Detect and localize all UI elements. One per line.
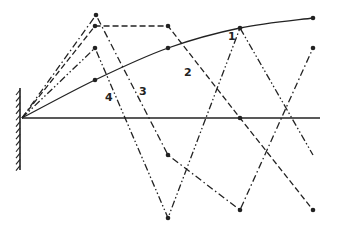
node-dot: [94, 13, 99, 18]
node-dot: [311, 46, 316, 51]
node-points: [93, 13, 316, 221]
node-dot: [311, 16, 316, 21]
fixed-wall: [16, 88, 20, 171]
mode-shape-diagram: 1234: [0, 0, 339, 236]
curve-label-2: 2: [184, 66, 192, 79]
curve-label-1: 1: [228, 30, 236, 43]
node-dot: [93, 78, 98, 83]
mode-curve-1: [22, 18, 313, 118]
mode-curves: [22, 15, 313, 218]
node-dot: [166, 153, 171, 158]
node-dot: [166, 24, 171, 29]
node-dot: [166, 46, 171, 51]
node-dot: [93, 46, 98, 51]
node-dot: [93, 24, 98, 29]
mode-curve-3: [22, 15, 313, 210]
curve-label-3: 3: [139, 85, 147, 98]
node-dot: [238, 208, 243, 213]
node-dot: [238, 26, 243, 31]
node-dot: [311, 208, 316, 213]
node-dot: [238, 116, 243, 121]
node-dot: [166, 216, 171, 221]
curve-label-4: 4: [105, 91, 113, 104]
